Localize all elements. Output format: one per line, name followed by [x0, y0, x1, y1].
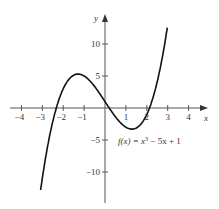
y-tick-label: 10 [91, 39, 101, 49]
function-plot: −4−3−2−11234 105−5−10 x y f(x) = x3 − 5x… [0, 0, 219, 209]
y-tick-label: 5 [96, 71, 101, 81]
y-tick-label: −10 [86, 167, 101, 177]
x-axis-arrow-icon [200, 105, 208, 111]
y-tick-label: −5 [90, 135, 100, 145]
function-label: f(x) = x3 − 5x + 1 [118, 136, 181, 146]
x-tick-label: 4 [186, 112, 191, 122]
y-axis-label: y [93, 13, 98, 23]
x-tick-label: 1 [124, 112, 129, 122]
x-tick-label: −1 [77, 112, 87, 122]
y-axis-arrow-icon [102, 14, 108, 22]
x-tick-label: 3 [165, 112, 170, 122]
x-tick-label: −4 [15, 112, 25, 122]
function-curve [41, 28, 168, 190]
x-tick-label: −3 [36, 112, 46, 122]
x-tick-label: −2 [56, 112, 66, 122]
x-axis-label: x [203, 113, 208, 123]
